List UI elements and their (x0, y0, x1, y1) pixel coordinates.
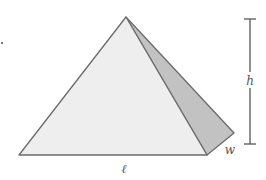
length-label: ℓ (122, 162, 127, 176)
stray-mark (1, 42, 3, 44)
height-label: h (246, 74, 254, 88)
pyramid-diagram: h w ℓ (0, 0, 266, 180)
width-label: w (225, 143, 236, 157)
